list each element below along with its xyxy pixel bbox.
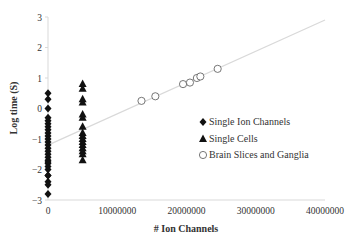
data-point [152, 93, 159, 100]
y-tick-label: 1 [37, 74, 42, 84]
y-axis-label: Log time (S) [8, 82, 20, 135]
x-tick-label: 20000000 [168, 206, 206, 216]
legend-label: Single Ion Channels [209, 116, 290, 127]
legend-marker-icon [199, 135, 207, 143]
y-tick-label: 0 [37, 104, 42, 114]
y-tick-label: 3 [37, 13, 42, 23]
legend-label: Brain Slices and Ganglia [209, 149, 309, 160]
axes [45, 17, 325, 200]
data-point [45, 190, 52, 198]
data-points [45, 65, 222, 198]
data-point [197, 73, 204, 80]
data-point [214, 65, 221, 72]
data-point [45, 95, 52, 103]
x-tick-label: 0 [46, 206, 51, 216]
data-point [45, 158, 52, 166]
data-point [179, 81, 186, 88]
x-axis-label: # Ion Channels [154, 223, 219, 234]
y-tick-label: 2 [37, 43, 42, 53]
data-point [138, 97, 145, 104]
legend-marker-icon [200, 118, 207, 126]
data-point [45, 172, 52, 180]
x-tick-label: 30000000 [237, 206, 275, 216]
legend-marker-icon [199, 151, 206, 158]
legend: Single Ion ChannelsSingle CellsBrain Sli… [199, 116, 309, 160]
y-tick-label: −2 [32, 165, 42, 175]
legend-label: Single Cells [209, 133, 258, 144]
data-point [186, 79, 193, 86]
y-tick-label: −1 [32, 135, 42, 145]
x-tick-label: 40000000 [306, 206, 344, 216]
data-point [45, 105, 52, 113]
tick-labels: −3−2−10123010000000200000003000000040000… [32, 13, 344, 217]
scatter-chart: −3−2−10123010000000200000003000000040000… [0, 0, 364, 246]
y-tick-label: −3 [32, 196, 42, 206]
x-tick-label: 10000000 [98, 206, 136, 216]
